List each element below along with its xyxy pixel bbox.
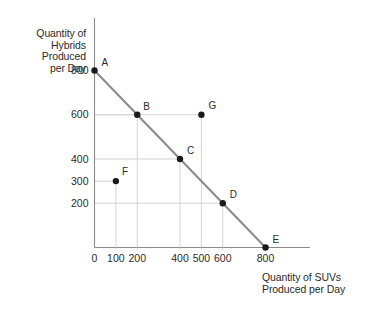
y-tick-label: 600 — [71, 108, 89, 120]
axis-lines — [95, 18, 311, 248]
x-tick-label: 800 — [257, 252, 275, 264]
data-point-label-a: A — [102, 57, 109, 68]
data-point-label-e: E — [273, 234, 280, 245]
data-point-f — [113, 178, 119, 184]
data-point-b — [134, 112, 140, 118]
x-tick-label: 400 — [171, 252, 189, 264]
y-tick-label: 300 — [71, 175, 89, 187]
x-axis-ticks: 0100200400500600800 — [92, 248, 275, 264]
data-point-a — [91, 67, 97, 73]
y-tick-label: 800 — [71, 64, 89, 76]
data-point-label-d: D — [230, 189, 237, 200]
data-point-c — [177, 156, 183, 162]
y-tick-label: 400 — [71, 153, 89, 165]
chart-canvas: 0100200400500600800 800600400300200 ABCD… — [0, 0, 379, 315]
data-point-label-b: B — [143, 101, 150, 112]
x-tick-label: 500 — [193, 252, 211, 264]
data-point-g — [198, 112, 204, 118]
data-point-label-c: C — [187, 145, 194, 156]
ppf-chart: Quantity of Hybrids Produced per Day Qua… — [0, 0, 379, 315]
y-axis-ticks: 800600400300200 — [71, 64, 89, 209]
x-tick-label: 200 — [128, 252, 146, 264]
y-tick-label: 200 — [71, 197, 89, 209]
data-points: ABCDEFG — [91, 57, 279, 250]
data-point-e — [262, 244, 268, 250]
x-tick-label: 0 — [92, 252, 98, 264]
data-point-d — [220, 200, 226, 206]
x-tick-label: 100 — [107, 252, 125, 264]
x-tick-label: 600 — [214, 252, 232, 264]
data-point-label-f: F — [122, 166, 128, 177]
data-point-label-g: G — [208, 100, 216, 111]
